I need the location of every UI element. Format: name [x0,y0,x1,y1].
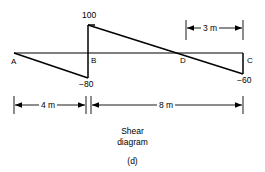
dimension-label-8m: 8 m [157,100,175,110]
dimension-label-3m: 3 m [201,23,219,33]
dimension-label-4m: 4 m [39,100,57,110]
dimension-4m-arrow-left [15,102,22,108]
dimension-8m-arrow-left [92,102,99,108]
value-label-drop-at-b: −80 [79,79,93,89]
figure-caption-line2: diagram [0,137,265,148]
point-label-c: C [247,56,253,66]
dimension-3m-arrow-right [235,25,242,31]
figure-caption-line1: Shear [0,126,265,137]
shear-segment-bc [88,25,243,74]
shear-segment-ab [14,53,88,78]
figure-label: (d) [0,156,265,167]
point-label-d: D [180,56,186,66]
dimension-4m-arrow-right [78,102,85,108]
dimension-8m-arrow-right [235,102,242,108]
point-label-b: B [91,56,96,66]
point-label-a: A [11,57,16,67]
value-label-peak-positive: 100 [82,10,96,20]
value-label-at-c: −60 [237,75,251,85]
shear-diagram-figure: 100 −80 −60 A B D C 3 m 4 m 8 m Shear di… [0,0,265,172]
dimension-3m-arrow-left [187,25,194,31]
